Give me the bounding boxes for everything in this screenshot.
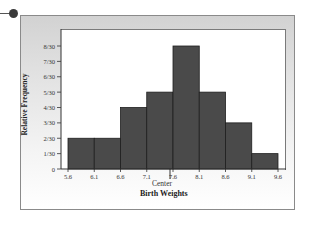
x-tick-label: 6.1 bbox=[90, 173, 98, 180]
histogram-bar bbox=[121, 108, 147, 170]
y-tick-label: 6/30 bbox=[43, 73, 55, 80]
histogram-bar bbox=[173, 46, 199, 169]
y-tick-label: 5/30 bbox=[43, 89, 55, 96]
histogram-bar bbox=[68, 138, 94, 169]
y-tick-label: 0 bbox=[52, 166, 55, 173]
x-tick-label: 9.1 bbox=[248, 173, 256, 180]
x-tick-label: 6.6 bbox=[116, 173, 125, 180]
histogram-bar bbox=[94, 138, 120, 169]
x-axis-center-annotation: Center bbox=[152, 179, 172, 188]
y-tick-label: 4/30 bbox=[43, 104, 55, 111]
y-tick-label: 3/30 bbox=[43, 119, 55, 126]
x-tick-label: 8.1 bbox=[195, 173, 203, 180]
x-tick-label: 8.6 bbox=[221, 173, 230, 180]
histogram-bar bbox=[199, 92, 225, 169]
y-tick-label: 8/30 bbox=[43, 43, 55, 50]
x-tick-label: 7.1 bbox=[143, 173, 151, 180]
histogram-bar bbox=[226, 123, 252, 169]
x-tick-label: 5.6 bbox=[64, 173, 73, 180]
y-tick-label: 2/30 bbox=[43, 135, 55, 142]
histogram-bar bbox=[252, 154, 278, 169]
y-tick-label: 1/30 bbox=[43, 150, 55, 157]
histogram-bar bbox=[147, 92, 173, 169]
y-tick-label: 7/30 bbox=[43, 58, 55, 65]
x-axis-title: Birth Weights bbox=[140, 189, 188, 198]
x-tick-label: 9.6 bbox=[274, 173, 283, 180]
y-axis-title: Relative Frequency bbox=[20, 65, 29, 145]
